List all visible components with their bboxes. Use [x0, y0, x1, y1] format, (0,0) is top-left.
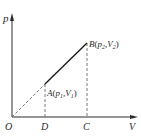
- segment-a-b: [45, 43, 87, 84]
- p-axis-arrow-icon: [10, 13, 14, 21]
- point-b-close-paren: ): [116, 39, 119, 49]
- v-axis-label: V: [129, 121, 137, 132]
- foot-label-c: C: [83, 121, 90, 132]
- v-axis-arrow-icon: [130, 115, 138, 119]
- origin-label: O: [5, 121, 12, 132]
- point-a-label: A(p1,V1): [46, 88, 77, 99]
- pv-diagram: p V O D C B(p2,V2) A(p1,V1): [0, 0, 141, 140]
- p-axis-label: p: [2, 12, 9, 24]
- point-a-close-paren: ): [74, 88, 77, 98]
- foot-label-d: D: [40, 121, 49, 132]
- point-b-label: B(p2,V2): [89, 39, 119, 50]
- segment-o-a: [12, 84, 45, 117]
